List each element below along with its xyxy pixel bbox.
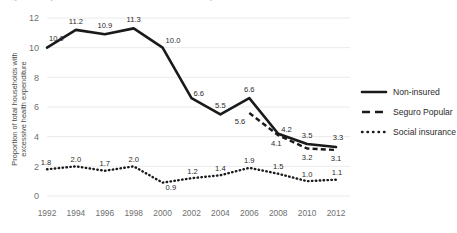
data-point-label: 1.8 [41, 158, 52, 167]
y-tick-label: 2 [34, 162, 39, 172]
data-point-label: 0.9 [166, 183, 177, 192]
x-tick-label: 2008 [269, 208, 288, 218]
chart-legend: Non-insuredSeguro PopularSocial insuranc… [362, 87, 456, 137]
x-axis-ticks: 1992199419961998200020022004200620082010… [38, 208, 346, 218]
data-point-label: 5.5 [215, 101, 226, 110]
data-point-label: 11.3 [127, 15, 141, 24]
y-tick-label: 0 [34, 191, 39, 201]
y-axis-ticks: 024681012 [29, 13, 39, 201]
legend-label: Social insurance [393, 127, 456, 137]
data-point-label: 1.7 [100, 159, 111, 168]
y-tick-label: 12 [29, 13, 39, 23]
series-layer [47, 28, 336, 182]
data-point-label: 2.0 [71, 155, 82, 164]
data-point-label: 6.6 [194, 89, 205, 98]
y-tick-label: 4 [34, 132, 39, 142]
data-point-label: 1.5 [273, 162, 284, 171]
data-point-label: 11.2 [69, 17, 83, 26]
x-tick-label: 1994 [67, 208, 86, 218]
data-point-label: 2.0 [128, 155, 139, 164]
chart-container: Figure 1. Proportion of households with … [0, 0, 457, 233]
x-tick-label: 2010 [298, 208, 317, 218]
x-tick-label: 1992 [38, 208, 57, 218]
data-point-label: 1.0 [302, 170, 313, 179]
y-tick-label: 8 [34, 73, 39, 83]
data-point-label: 3.2 [302, 153, 313, 162]
data-point-label: 5.6 [235, 117, 246, 126]
data-labels-layer: 10.011.210.911.310.06.65.56.64.23.53.35.… [41, 15, 344, 191]
data-point-label: 3.3 [333, 133, 344, 142]
data-point-label: 3.1 [331, 154, 342, 163]
legend-label: Non-insured [393, 87, 440, 97]
data-point-label: 3.5 [302, 131, 313, 140]
y-tick-label: 10 [29, 43, 39, 53]
data-point-label: 1.9 [244, 156, 255, 165]
data-point-label: 10.0 [166, 36, 181, 45]
x-tick-label: 2004 [211, 208, 230, 218]
x-tick-label: 2000 [153, 208, 172, 218]
data-point-label: 4.2 [281, 125, 292, 134]
data-point-label: 1.1 [332, 168, 343, 177]
data-point-label: 1.2 [187, 167, 198, 176]
data-point-label: 10.0 [49, 34, 64, 43]
data-point-label: 6.6 [244, 85, 255, 94]
y-tick-label: 6 [34, 102, 39, 112]
data-point-label: 1.4 [215, 164, 226, 173]
x-tick-label: 2012 [327, 208, 346, 218]
x-tick-label: 2006 [240, 208, 259, 218]
data-point-label: 10.9 [97, 21, 112, 30]
x-tick-label: 2002 [182, 208, 201, 218]
series-line [47, 28, 336, 147]
line-chart-svg: 024681012 199219941996199820002002200420… [0, 0, 457, 233]
x-tick-label: 1998 [124, 208, 143, 218]
data-point-label: 4.1 [271, 139, 282, 148]
legend-label: Seguro Popular [393, 107, 453, 117]
x-tick-label: 1996 [95, 208, 114, 218]
